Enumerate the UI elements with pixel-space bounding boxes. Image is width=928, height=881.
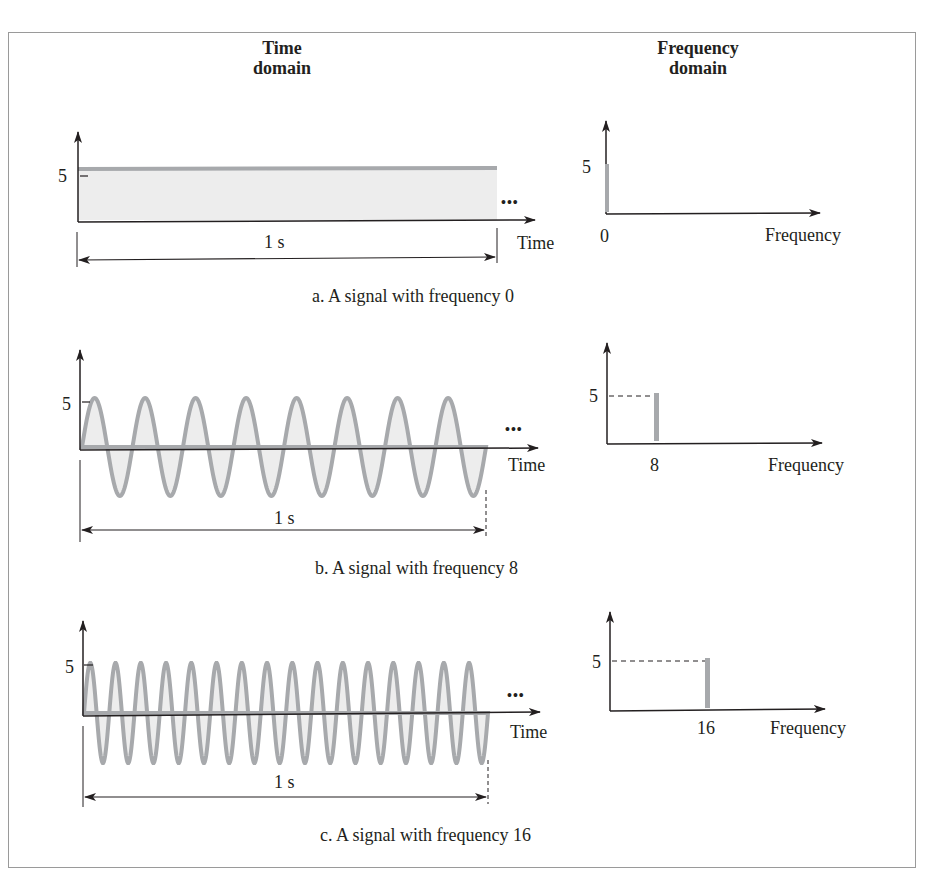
duration-label: 1 s (274, 508, 295, 528)
freq-amplitude-label: 5 (589, 386, 598, 406)
amplitude-label: 5 (62, 394, 71, 414)
diagram-canvas (0, 0, 928, 881)
panel-c-frequency-plot (610, 612, 825, 711)
time-axis-label: Time (517, 233, 554, 253)
spectral-line (705, 658, 710, 708)
freq-amplitude-label: 5 (592, 652, 601, 672)
x-axis (610, 709, 825, 711)
caption-a: a. A signal with frequency 0 (312, 286, 514, 306)
frequency-axis-label: Frequency (770, 718, 846, 738)
panel-c-time-plot (83, 621, 540, 807)
duration-label: 1 s (274, 772, 295, 792)
frequency-axis-label: Frequency (765, 225, 841, 245)
time-axis-label: Time (510, 722, 547, 742)
ellipsis: ••• (501, 193, 519, 213)
x-axis (607, 443, 822, 444)
x-axis (78, 220, 535, 222)
caption-b: b. A signal with frequency 8 (315, 558, 518, 578)
freq-tick-label: 8 (650, 455, 659, 475)
frequency-axis-label: Frequency (768, 455, 844, 475)
caption-c: c. A signal with frequency 16 (320, 825, 531, 845)
ellipsis: ••• (505, 420, 523, 440)
freq-tick-label: 16 (697, 718, 715, 738)
amplitude-label: 5 (65, 657, 74, 677)
duration-arrow (79, 257, 495, 260)
freq-amplitude-label: 5 (582, 157, 591, 177)
signal-fill (78, 170, 497, 220)
freq-tick-label: 0 (600, 226, 609, 246)
ellipsis: ••• (507, 686, 525, 706)
panel-a-time-plot (77, 132, 535, 267)
constant-signal (78, 168, 497, 169)
panel-a-frequency-plot (605, 121, 820, 214)
time-axis-label: Time (508, 455, 545, 475)
spectral-line (605, 164, 609, 212)
amplitude-label: 5 (58, 166, 67, 186)
duration-label: 1 s (264, 232, 285, 252)
panel-b-time-plot (80, 350, 538, 542)
sine-wave-8hz (82, 398, 486, 496)
panel-b-frequency-plot (607, 343, 822, 444)
spectral-line (654, 393, 659, 441)
x-axis (606, 213, 820, 214)
